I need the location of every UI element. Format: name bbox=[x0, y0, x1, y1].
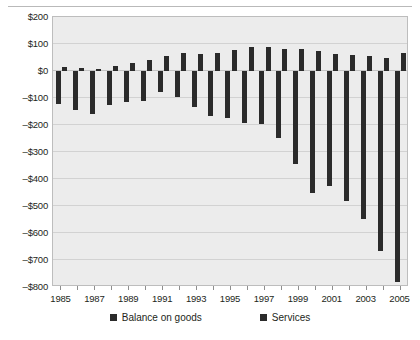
bar-services bbox=[367, 56, 372, 71]
x-axis-tick bbox=[315, 286, 316, 290]
bar-services bbox=[333, 54, 338, 71]
bar-services bbox=[266, 47, 271, 71]
y-axis-tick-label: –$200 bbox=[0, 119, 48, 130]
plot-area bbox=[52, 16, 408, 286]
y-axis-tick-label: $100 bbox=[0, 38, 48, 49]
gridline bbox=[53, 151, 407, 152]
x-axis-tick bbox=[179, 286, 180, 290]
bar-balance-on-goods bbox=[208, 71, 213, 116]
y-axis-tick-label: –$400 bbox=[0, 173, 48, 184]
bar-services bbox=[299, 49, 304, 71]
bar-services bbox=[316, 51, 321, 71]
x-axis-tick bbox=[281, 286, 282, 290]
bar-services bbox=[113, 66, 118, 71]
x-axis-tick bbox=[298, 286, 299, 290]
x-axis-tick bbox=[349, 286, 350, 290]
bar-balance-on-goods bbox=[259, 71, 264, 124]
bar-balance-on-goods bbox=[293, 71, 298, 164]
x-axis-tick bbox=[400, 286, 401, 290]
bar-balance-on-goods bbox=[141, 71, 146, 101]
y-axis-tick-label: –$100 bbox=[0, 92, 48, 103]
x-axis-tick-label: 1989 bbox=[118, 293, 138, 304]
bar-services bbox=[249, 47, 254, 71]
bar-services bbox=[62, 67, 67, 71]
x-axis-tick bbox=[247, 286, 248, 290]
x-axis-tick bbox=[77, 286, 78, 290]
gridline bbox=[53, 124, 407, 125]
x-axis-tick-label: 1991 bbox=[152, 293, 172, 304]
x-axis-tick-label: 1987 bbox=[84, 293, 104, 304]
legend-label: Balance on goods bbox=[122, 312, 202, 323]
x-axis-tick bbox=[230, 286, 231, 290]
bar-balance-on-goods bbox=[327, 71, 332, 186]
gridline bbox=[53, 43, 407, 44]
legend-swatch-icon bbox=[110, 314, 117, 321]
bar-balance-on-goods bbox=[361, 71, 366, 219]
x-axis-tick bbox=[213, 286, 214, 290]
bar-balance-on-goods bbox=[276, 71, 281, 138]
x-axis-tick-label: 1993 bbox=[186, 293, 206, 304]
x-axis-tick bbox=[128, 286, 129, 290]
bar-balance-on-goods bbox=[124, 71, 129, 102]
x-axis-tick bbox=[94, 286, 95, 290]
bar-balance-on-goods bbox=[107, 71, 112, 105]
bar-balance-on-goods bbox=[344, 71, 349, 201]
gridline bbox=[53, 178, 407, 179]
x-axis-tick bbox=[111, 286, 112, 290]
legend-label: Services bbox=[272, 312, 310, 323]
bar-services bbox=[164, 56, 169, 71]
legend-swatch-icon bbox=[260, 314, 267, 321]
x-axis-tick-label: 2005 bbox=[389, 293, 409, 304]
gridline bbox=[53, 232, 407, 233]
y-axis-tick-label: –$300 bbox=[0, 146, 48, 157]
bar-balance-on-goods bbox=[395, 71, 400, 282]
x-axis-tick bbox=[383, 286, 384, 290]
x-axis-tick-label: 1999 bbox=[288, 293, 308, 304]
bar-services bbox=[198, 54, 203, 71]
legend-item[interactable]: Services bbox=[260, 312, 310, 323]
bar-balance-on-goods bbox=[90, 71, 95, 114]
bar-services bbox=[282, 49, 287, 71]
bar-balance-on-goods bbox=[192, 71, 197, 107]
bar-balance-on-goods bbox=[158, 71, 163, 92]
gridline bbox=[53, 259, 407, 260]
x-axis-tick-label: 2003 bbox=[355, 293, 375, 304]
x-axis-tick bbox=[264, 286, 265, 290]
x-axis-tick bbox=[162, 286, 163, 290]
bar-balance-on-goods bbox=[242, 71, 247, 123]
gridline bbox=[53, 16, 407, 17]
legend-item[interactable]: Balance on goods bbox=[110, 312, 202, 323]
bar-balance-on-goods bbox=[310, 71, 315, 193]
bar-services bbox=[232, 50, 237, 71]
x-axis-tick bbox=[366, 286, 367, 290]
y-axis-tick-label: –$700 bbox=[0, 254, 48, 265]
bar-services bbox=[130, 63, 135, 71]
chart-legend: Balance on goodsServices bbox=[0, 312, 420, 323]
x-axis-tick-label: 1995 bbox=[220, 293, 240, 304]
bar-services bbox=[181, 53, 186, 71]
y-axis-tick-label: –$800 bbox=[0, 281, 48, 292]
x-axis-tick bbox=[145, 286, 146, 290]
x-axis-tick bbox=[60, 286, 61, 290]
bar-services bbox=[79, 68, 84, 71]
bar-services bbox=[384, 58, 389, 71]
trade-balance-bar-chart: $200$100$0–$100–$200–$300–$400–$500–$600… bbox=[0, 0, 420, 340]
bar-balance-on-goods bbox=[73, 71, 78, 110]
x-axis-tick bbox=[196, 286, 197, 290]
bar-services bbox=[96, 69, 101, 71]
bar-services bbox=[215, 53, 220, 71]
bar-services bbox=[147, 60, 152, 71]
bar-services bbox=[350, 55, 355, 71]
y-axis-tick-label: $200 bbox=[0, 11, 48, 22]
bar-balance-on-goods bbox=[378, 71, 383, 251]
bar-services bbox=[401, 53, 406, 71]
bar-balance-on-goods bbox=[175, 71, 180, 97]
gridline bbox=[53, 205, 407, 206]
x-axis-tick-label: 1997 bbox=[254, 293, 274, 304]
bar-balance-on-goods bbox=[56, 71, 61, 104]
x-axis-tick bbox=[332, 286, 333, 290]
y-axis-tick-label: $0 bbox=[0, 65, 48, 76]
x-axis-tick-label: 1985 bbox=[50, 293, 70, 304]
y-axis-tick-label: –$600 bbox=[0, 227, 48, 238]
x-axis-tick-label: 2001 bbox=[322, 293, 342, 304]
